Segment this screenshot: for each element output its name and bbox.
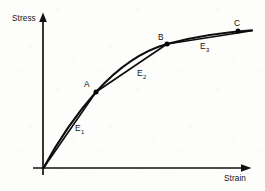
y-axis-label: Stress bbox=[12, 14, 36, 23]
horizontal-axis-arrowhead-icon bbox=[241, 164, 252, 171]
modulus-subscript-e3: 3 bbox=[206, 47, 210, 53]
point-marker-b bbox=[165, 42, 170, 47]
axes-group bbox=[33, 13, 252, 176]
point-label-c: C bbox=[234, 18, 240, 28]
point-markers-group bbox=[94, 29, 241, 95]
point-marker-a bbox=[94, 90, 99, 95]
point-marker-c bbox=[236, 29, 241, 34]
stress-strain-figure: Stress Strain A B C E 1 bbox=[0, 0, 265, 191]
modulus-subscript-e2: 2 bbox=[143, 74, 146, 80]
x-axis-label: Strain bbox=[224, 174, 246, 183]
modulus-subscript-e1: 1 bbox=[81, 129, 84, 135]
axis-labels-group: Stress Strain bbox=[12, 14, 246, 183]
modulus-label-e2: E 2 bbox=[137, 68, 146, 80]
point-label-b: B bbox=[158, 32, 164, 42]
secant-line-e2 bbox=[96, 44, 167, 92]
point-label-a: A bbox=[84, 79, 90, 89]
stress-strain-chart: Stress Strain A B C E 1 bbox=[0, 0, 265, 191]
point-labels-group: A B C bbox=[84, 18, 240, 89]
modulus-label-e1: E 1 bbox=[75, 123, 84, 135]
vertical-axis-arrowhead-icon bbox=[39, 13, 47, 23]
secant-line-e1 bbox=[44, 92, 97, 168]
stress-strain-curve bbox=[44, 30, 253, 168]
modulus-label-e3: E 3 bbox=[200, 41, 210, 53]
